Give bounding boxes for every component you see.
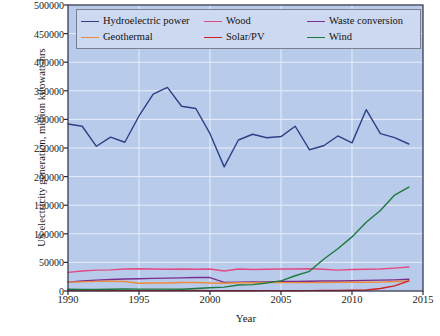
legend-line-swatch <box>204 21 222 22</box>
legend-label: Hydroelectric power <box>103 16 190 27</box>
x-axis-title: Year <box>68 312 424 324</box>
legend-line-swatch <box>81 37 99 38</box>
x-tick-label: 2010 <box>322 294 382 305</box>
x-tick-label: 2005 <box>251 294 311 305</box>
legend-entry[interactable]: Wood <box>204 16 307 27</box>
legend-line-swatch <box>307 21 325 22</box>
line-chart-plot <box>0 0 440 336</box>
legend-entry[interactable]: Waste conversion <box>307 16 416 27</box>
legend-line-swatch <box>307 37 325 38</box>
legend-label: Wood <box>226 16 251 27</box>
x-tick-label: 1990 <box>38 294 98 305</box>
x-tick-label: 2000 <box>180 294 240 305</box>
chart-legend: Hydroelectric powerWoodWaste conversionG… <box>76 9 421 49</box>
chart-figure: 0500001000001500002000002500003000003500… <box>0 0 440 336</box>
y-axis-title: US electricity generation, million kilow… <box>36 3 47 293</box>
legend-label: Wind <box>329 32 352 43</box>
legend-entry[interactable]: Hydroelectric power <box>81 16 204 27</box>
legend-entry[interactable]: Geothermal <box>81 32 204 43</box>
x-tick-label: 2015 <box>393 294 440 305</box>
legend-label: Waste conversion <box>329 16 403 27</box>
legend-label: Solar/PV <box>226 32 265 43</box>
legend-line-swatch <box>204 37 222 38</box>
legend-label: Geothermal <box>103 32 153 43</box>
legend-entry[interactable]: Solar/PV <box>204 32 307 43</box>
x-tick-label: 1995 <box>109 294 169 305</box>
legend-entry[interactable]: Wind <box>307 32 416 43</box>
y-axis-ticks: 0500001000001500002000002500003000003500… <box>4 0 64 336</box>
legend-line-swatch <box>81 21 99 22</box>
